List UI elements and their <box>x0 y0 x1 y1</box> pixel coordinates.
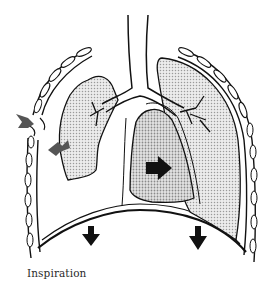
figure-caption: Inspiration <box>27 267 86 279</box>
mediastinum-left-line <box>122 118 126 206</box>
diaphragm-down-arrow-left <box>82 226 100 246</box>
diaphragm-down-arrow-right <box>189 226 207 250</box>
inspiration-diagram <box>0 0 272 294</box>
air-entry-arrow <box>16 114 34 128</box>
left-collapsed-lung <box>59 76 118 180</box>
